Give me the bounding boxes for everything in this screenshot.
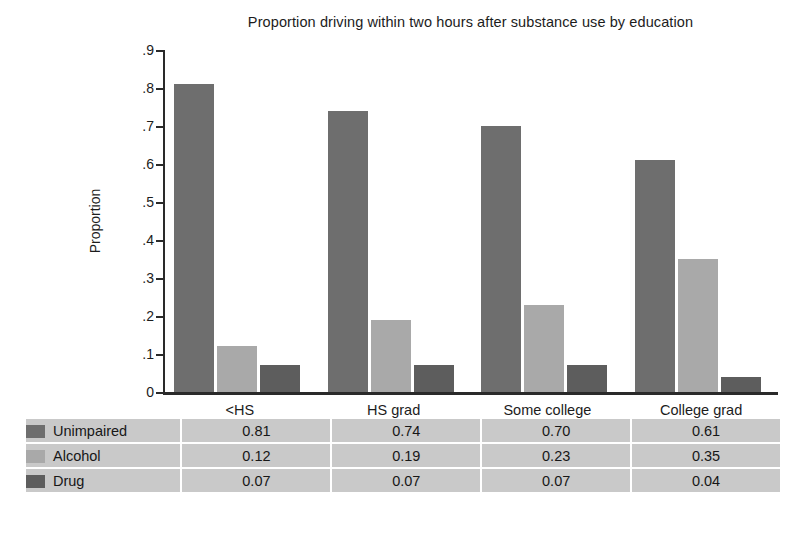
table-cell-value: 0.19 xyxy=(331,443,481,468)
table-cell-value: 0.07 xyxy=(331,468,481,492)
chart-title: Proportion driving within two hours afte… xyxy=(163,14,778,30)
y-tick-mark xyxy=(156,88,163,90)
bar xyxy=(371,320,411,392)
legend-label: Alcohol xyxy=(53,448,101,464)
y-tick-label: .7 xyxy=(142,118,154,134)
data-table: Unimpaired0.810.740.700.61Alcohol0.120.1… xyxy=(26,419,780,492)
y-tick-mark xyxy=(156,316,163,318)
legend-swatch-icon xyxy=(26,425,45,438)
y-tick-mark xyxy=(156,202,163,204)
table-cell-value: 0.70 xyxy=(481,419,631,443)
legend-cell: Unimpaired xyxy=(26,419,181,443)
x-axis-label: <HS xyxy=(226,402,255,418)
y-tick-label: .4 xyxy=(142,232,154,248)
legend-swatch-icon xyxy=(26,475,45,488)
bar xyxy=(260,365,300,392)
y-tick-label: .9 xyxy=(142,42,154,58)
y-tick-mark xyxy=(156,278,163,280)
bar xyxy=(635,160,675,392)
table-row: Drug0.070.070.070.04 xyxy=(26,468,780,492)
x-axis-label: HS grad xyxy=(367,402,420,418)
table-cell-value: 0.74 xyxy=(331,419,481,443)
y-tick-label: .3 xyxy=(142,270,154,286)
bar xyxy=(481,126,521,392)
y-tick-mark xyxy=(156,354,163,356)
table-row: Alcohol0.120.190.230.35 xyxy=(26,443,780,468)
y-axis-title: Proportion xyxy=(87,189,103,254)
y-tick-mark xyxy=(156,50,163,52)
y-tick-label: .1 xyxy=(142,346,154,362)
table-cell-value: 0.61 xyxy=(631,419,780,443)
y-tick-mark xyxy=(156,392,163,394)
y-tick-label: .6 xyxy=(142,156,154,172)
bar xyxy=(217,346,257,392)
plot-area: Proportion 0.1.2.3.4.5.6.7.8.9 <HSHS gra… xyxy=(163,50,778,392)
legend-label: Drug xyxy=(53,473,84,489)
table-cell-value: 0.81 xyxy=(181,419,331,443)
legend-swatch-icon xyxy=(26,450,45,463)
bar xyxy=(328,111,368,392)
y-tick-mark xyxy=(156,240,163,242)
table-cell-value: 0.35 xyxy=(631,443,780,468)
legend-cell: Alcohol xyxy=(26,443,181,468)
y-axis-line xyxy=(163,50,165,392)
table-cell-value: 0.04 xyxy=(631,468,780,492)
y-tick-mark xyxy=(156,126,163,128)
y-tick-label: .8 xyxy=(142,80,154,96)
table-cell-value: 0.07 xyxy=(181,468,331,492)
bar xyxy=(678,259,718,392)
bar xyxy=(721,377,761,392)
x-axis-line xyxy=(163,392,778,395)
table-cell-value: 0.07 xyxy=(481,468,631,492)
bar xyxy=(524,305,564,392)
figure: Proportion driving within two hours afte… xyxy=(0,0,808,544)
bar xyxy=(567,365,607,392)
table-row: Unimpaired0.810.740.700.61 xyxy=(26,419,780,443)
y-tick-label: .2 xyxy=(142,308,154,324)
y-tick-mark xyxy=(156,164,163,166)
y-tick-label: 0 xyxy=(146,384,154,400)
y-tick-label: .5 xyxy=(142,194,154,210)
x-axis-label: College grad xyxy=(660,402,742,418)
legend-label: Unimpaired xyxy=(53,423,127,439)
x-axis-label: Some college xyxy=(503,402,591,418)
bar xyxy=(174,84,214,392)
bar xyxy=(414,365,454,392)
table-cell-value: 0.23 xyxy=(481,443,631,468)
legend-cell: Drug xyxy=(26,468,181,492)
table-cell-value: 0.12 xyxy=(181,443,331,468)
